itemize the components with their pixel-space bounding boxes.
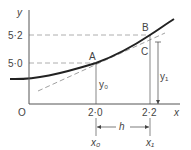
origin-label: O <box>18 107 26 118</box>
y-tick-5-2: 5·2 <box>8 30 23 41</box>
y-axis-label: y <box>16 7 23 18</box>
x-tick-2-0: 2·0 <box>88 107 103 118</box>
h-label: h <box>119 121 125 132</box>
x-axis-label: x <box>173 107 180 118</box>
point-b-label: B <box>142 22 149 33</box>
x1-label: x₁ <box>145 137 154 148</box>
x0-label: x₀ <box>90 137 100 148</box>
y1-label: y₁ <box>160 71 169 82</box>
point-a-label: A <box>89 51 96 62</box>
y1-arrowhead-icon <box>156 100 160 104</box>
y-tick-5-0: 5·0 <box>8 58 23 69</box>
h-arrow-right-icon <box>145 125 149 129</box>
y0-label: y₀ <box>99 79 108 90</box>
tangent-approximation-diagram: y 5·2 5·0 O 2·0 2·2 x A B C y₀ y₁ h x₀ x… <box>0 0 191 150</box>
curve <box>10 19 174 79</box>
h-arrow-left-icon <box>97 125 101 129</box>
x-tick-2-2: 2·2 <box>142 107 157 118</box>
point-c-label: C <box>141 46 148 57</box>
